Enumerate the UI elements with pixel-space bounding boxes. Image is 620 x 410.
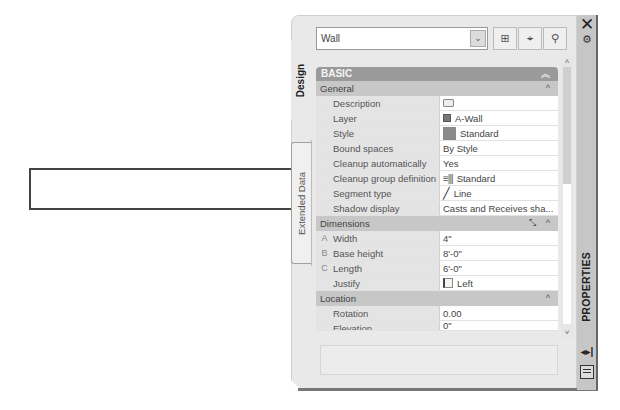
- section-basic-label: BASIC: [321, 68, 352, 79]
- property-label: Cleanup automatically: [333, 156, 440, 170]
- category-location[interactable]: Location ^: [316, 291, 558, 306]
- property-description-area: [320, 345, 558, 375]
- description-editor-icon[interactable]: [443, 99, 454, 107]
- property-row-segment-type[interactable]: Segment type ╱Line: [316, 186, 558, 201]
- property-value[interactable]: [440, 96, 558, 110]
- property-value[interactable]: A-Wall: [440, 111, 558, 125]
- property-row-description[interactable]: Description: [316, 96, 558, 111]
- chevron-up-icon[interactable]: ^: [546, 216, 550, 231]
- category-location-label: Location: [320, 293, 356, 304]
- object-type-value: Wall: [321, 33, 340, 44]
- palette-shadow: [298, 388, 598, 391]
- property-label: Base height: [333, 246, 440, 260]
- add-selection-icon: ⊞: [500, 32, 509, 45]
- chevron-down-icon[interactable]: ⌄: [470, 30, 486, 47]
- property-value[interactable]: Yes: [440, 156, 558, 170]
- row-gutter: [316, 171, 333, 185]
- property-row-base-height[interactable]: B Base height 8'-0": [316, 246, 558, 261]
- property-label: Bound spaces: [333, 141, 440, 155]
- tab-design[interactable]: Design: [291, 40, 311, 120]
- palette-menu-icon[interactable]: [580, 365, 594, 379]
- property-value[interactable]: 6'-0": [440, 261, 558, 275]
- category-dimensions-label: Dimensions: [320, 218, 370, 229]
- tab-extended-data[interactable]: Extended Data: [291, 142, 311, 264]
- property-value[interactable]: Casts and Receives sha...: [440, 201, 558, 215]
- property-value[interactable]: 0": [440, 321, 558, 330]
- property-value[interactable]: Standard: [440, 126, 558, 140]
- row-gutter: [316, 306, 333, 320]
- cleanup-group-value: Standard: [457, 171, 496, 185]
- row-gutter: [316, 141, 333, 155]
- property-label: Rotation: [333, 306, 440, 320]
- select-objects-icon: ⚲: [551, 32, 559, 45]
- property-row-bound-spaces[interactable]: Bound spaces By Style: [316, 141, 558, 156]
- justify-value: Left: [457, 276, 473, 290]
- dimension-key: [316, 276, 333, 290]
- close-icon[interactable]: ✕: [578, 14, 596, 35]
- property-label: Length: [333, 261, 440, 275]
- row-gutter: [316, 111, 333, 125]
- scrollbar-track-lower[interactable]: [563, 184, 571, 324]
- property-label: Width: [333, 231, 440, 245]
- select-objects-button[interactable]: ⚲: [543, 27, 567, 50]
- property-value[interactable]: 0.00: [440, 306, 558, 320]
- dimension-key: B: [316, 246, 333, 260]
- palette-title-bar[interactable]: [577, 15, 598, 390]
- dimension-key: C: [316, 261, 333, 275]
- object-type-select[interactable]: Wall ⌄: [316, 27, 488, 50]
- chevron-up-icon[interactable]: ^: [546, 81, 550, 96]
- property-label: Elevation: [333, 321, 440, 330]
- tab-divider: [311, 140, 312, 266]
- style-value: Standard: [460, 126, 499, 140]
- row-gutter: [316, 321, 333, 330]
- property-value[interactable]: 4": [440, 231, 558, 245]
- scroll-up-arrow-icon[interactable]: ˄: [562, 57, 572, 66]
- property-label: Justify: [333, 276, 440, 290]
- property-label: Segment type: [333, 186, 440, 200]
- auto-hide-icon[interactable]: ◂▸|: [578, 346, 596, 357]
- dimension-tool-icon[interactable]: ⤡: [529, 216, 536, 231]
- segment-type-value: Line: [454, 186, 472, 200]
- row-gutter: [316, 201, 333, 215]
- property-value[interactable]: ╱Line: [440, 186, 558, 200]
- property-row-shadow-display[interactable]: Shadow display Casts and Receives sha...: [316, 201, 558, 216]
- property-row-width[interactable]: A Width 4": [316, 231, 558, 246]
- property-value[interactable]: 8'-0": [440, 246, 558, 260]
- property-value[interactable]: By Style: [440, 141, 558, 155]
- property-row-layer[interactable]: Layer A-Wall: [316, 111, 558, 126]
- tab-design-label: Design: [296, 63, 307, 96]
- property-label: Layer: [333, 111, 440, 125]
- property-row-cleanup-group[interactable]: Cleanup group definition ≡|||Standard: [316, 171, 558, 186]
- add-to-selection-button[interactable]: ⊞: [493, 27, 517, 50]
- property-row-elevation[interactable]: Elevation 0": [316, 321, 558, 331]
- property-label: Shadow display: [333, 201, 440, 215]
- cleanup-group-icon: ≡|||: [443, 171, 453, 185]
- row-gutter: [316, 156, 333, 170]
- chevron-up-icon[interactable]: ^: [546, 291, 550, 306]
- wall-object[interactable]: [29, 168, 294, 210]
- palette-title: PROPERTIES: [580, 267, 594, 307]
- row-gutter: [316, 186, 333, 200]
- property-label: Description: [333, 96, 440, 110]
- property-row-rotation[interactable]: Rotation 0.00: [316, 306, 558, 321]
- scrollbar-thumb[interactable]: [563, 67, 571, 184]
- property-row-length[interactable]: C Length 6'-0": [316, 261, 558, 276]
- line-segment-icon: ╱: [443, 186, 450, 200]
- category-dimensions[interactable]: Dimensions ⤡ ^: [316, 216, 558, 231]
- palette-settings-icon[interactable]: ⚙: [579, 33, 595, 47]
- quick-select-button[interactable]: ⌖: [518, 27, 542, 50]
- category-general-label: General: [320, 83, 354, 94]
- layer-value: A-Wall: [455, 111, 483, 125]
- justify-left-icon: [443, 278, 453, 288]
- scroll-down-arrow-icon[interactable]: ˅: [562, 328, 572, 337]
- category-general[interactable]: General ^: [316, 81, 558, 96]
- row-gutter: [316, 126, 333, 140]
- collapse-all-icon[interactable]: ︽: [541, 67, 550, 81]
- layer-color-icon: [443, 114, 451, 122]
- property-row-justify[interactable]: Justify Left: [316, 276, 558, 291]
- property-value[interactable]: Left: [440, 276, 558, 290]
- property-row-style[interactable]: Style Standard: [316, 126, 558, 141]
- property-row-cleanup-automatically[interactable]: Cleanup automatically Yes: [316, 156, 558, 171]
- section-basic[interactable]: BASIC ︽: [316, 67, 558, 81]
- property-value[interactable]: ≡|||Standard: [440, 171, 558, 185]
